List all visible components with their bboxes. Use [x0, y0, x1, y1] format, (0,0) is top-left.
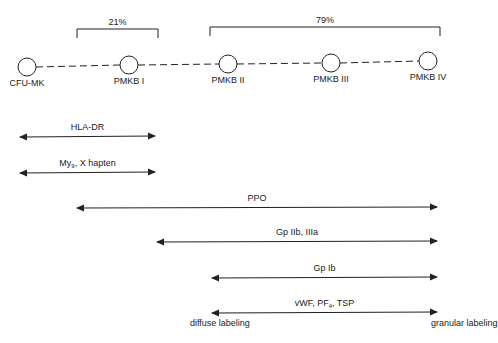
stage-label: PMKB III — [313, 75, 349, 84]
stage-circle — [419, 52, 437, 70]
marker-range-arrow — [212, 312, 437, 313]
marker-label-rest: , TSP — [332, 298, 354, 308]
stage-label: PMKB I — [114, 77, 145, 86]
percentage-bracket — [77, 29, 158, 38]
marker-label-main: My — [59, 158, 71, 168]
granular-labeling-label: granular labeling — [431, 319, 498, 328]
dashed-connector — [340, 61, 419, 63]
marker-label: Gp IIb, IIIa — [276, 228, 318, 237]
marker-label-rest: , X hapten — [75, 158, 116, 168]
marker-label: Gp Ib — [313, 264, 335, 273]
marker-range-arrow — [157, 241, 437, 242]
dashed-connector — [237, 63, 322, 64]
percentage-brackets — [77, 27, 440, 38]
stage-circles — [18, 52, 437, 76]
dashed-connector — [36, 65, 120, 67]
marker-range-arrow — [77, 207, 437, 208]
stage-label: PMKB II — [211, 76, 244, 85]
stage-label: PMKB IV — [410, 73, 447, 82]
marker-label: HLA-DR — [71, 123, 105, 132]
marker-label: My9, X hapten — [59, 159, 115, 169]
diffuse-labeling-label: diffuse labeling — [190, 319, 250, 328]
stage-label: CFU-MK — [10, 79, 45, 88]
stage-circle — [18, 58, 36, 76]
marker-range-arrow — [20, 136, 155, 137]
dashed-connector — [138, 64, 219, 65]
marker-label: vWF, PF4, TSP — [295, 299, 355, 309]
stage-circle — [322, 54, 340, 72]
marker-range-arrow — [212, 277, 437, 278]
stage-circle — [219, 55, 237, 73]
stage-circle — [120, 56, 138, 74]
marker-range-arrow — [20, 172, 155, 173]
marker-label-main: vWF, PF — [295, 298, 329, 308]
percentage-label: 79% — [316, 16, 334, 25]
percentage-label: 21% — [108, 18, 126, 27]
marker-label: PPO — [247, 194, 266, 203]
percentage-bracket — [210, 27, 440, 36]
